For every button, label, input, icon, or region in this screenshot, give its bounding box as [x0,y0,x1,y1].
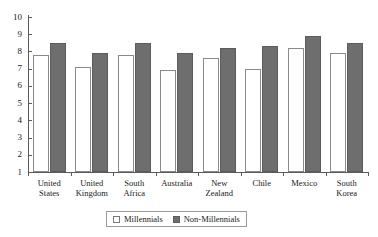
x-tick-mark [28,172,29,176]
y-tick-label: 2 [0,150,22,159]
legend-label-non-millennials: Non-Millennials [184,214,240,224]
chart-legend: Millennials Non-Millennials [106,211,247,227]
legend-item-millennials: Millennials [113,214,163,224]
x-tick-mark [198,172,199,176]
bar-millennials [245,69,261,172]
plot-area [28,17,368,172]
x-category-label: SouthAfrica [113,178,156,198]
legend-label-millennials: Millennials [124,214,163,224]
bar-millennials [33,55,49,172]
y-tick-label: 8 [0,47,22,56]
bar-non-millennials [347,43,363,172]
y-tick-label: 7 [0,64,22,73]
bar-non-millennials [50,43,66,172]
x-tick-mark [71,172,72,176]
y-tick-label: 1 [0,168,22,177]
bar-chart: 12345678910 UnitedStatesUnitedKingdomSou… [0,0,378,237]
x-category-label-line: Chile [241,178,284,188]
x-tick-mark [326,172,327,176]
y-tick-label: 10 [0,13,22,22]
bar-group [241,17,284,172]
x-tick-mark [113,172,114,176]
y-tick-label: 3 [0,133,22,142]
x-tick-mark [241,172,242,176]
x-category-label: UnitedKingdom [71,178,114,198]
x-category-label-line: United [28,178,71,188]
bar-group [283,17,326,172]
x-category-label-line: Australia [156,178,199,188]
x-category-label: Chile [241,178,284,188]
legend-swatch-non-millennials-icon [173,216,180,223]
x-category-label-line: New [198,178,241,188]
x-category-label: Australia [156,178,199,188]
x-tick-mark [368,172,369,176]
x-category-label-line: Korea [326,188,369,198]
bar-group [156,17,199,172]
bar-non-millennials [92,53,108,172]
bar-millennials [203,58,219,172]
bar-non-millennials [262,46,278,172]
bar-group [113,17,156,172]
x-tick-mark [283,172,284,176]
y-tick-label: 4 [0,116,22,125]
x-category-label-line: Zealand [198,188,241,198]
x-category-label: UnitedStates [28,178,71,198]
x-category-label-line: South [326,178,369,188]
legend-item-non-millennials: Non-Millennials [173,214,240,224]
bar-non-millennials [305,36,321,172]
bar-millennials [330,53,346,172]
y-tick-label: 6 [0,81,22,90]
x-category-label-line: States [28,188,71,198]
x-category-label-line: Kingdom [71,188,114,198]
x-category-label-line: United [71,178,114,188]
bar-group [28,17,71,172]
bar-group [198,17,241,172]
x-category-label: NewZealand [198,178,241,198]
bar-millennials [75,67,91,172]
x-category-label: SouthKorea [326,178,369,198]
bar-non-millennials [220,48,236,172]
bar-non-millennials [177,53,193,172]
bar-millennials [160,70,176,172]
y-tick-label: 5 [0,99,22,108]
bar-group [71,17,114,172]
x-category-label-line: Mexico [283,178,326,188]
bar-non-millennials [135,43,151,172]
x-tick-mark [156,172,157,176]
legend-swatch-millennials-icon [113,216,120,223]
y-tick-label: 9 [0,30,22,39]
x-category-label-line: Africa [113,188,156,198]
bar-millennials [118,55,134,172]
x-category-label-line: South [113,178,156,188]
bar-millennials [288,48,304,172]
bar-group [326,17,369,172]
x-category-label: Mexico [283,178,326,188]
